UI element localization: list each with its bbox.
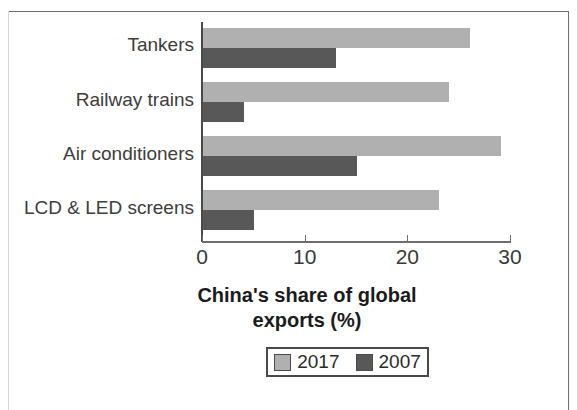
legend: 2017 2007: [266, 347, 429, 377]
bar-2017-railway-trains: [203, 82, 449, 102]
y-axis-line: [201, 22, 203, 242]
x-tick-label-20: 20: [396, 245, 419, 269]
category-label-lcd-led-screens: LCD & LED screens: [24, 197, 194, 219]
legend-label-2007: 2007: [379, 352, 421, 372]
bar-2017-air-conditioners: [203, 136, 501, 156]
x-axis-title-line2: exports (%): [162, 308, 452, 333]
bar-2017-lcd-led-screens: [203, 190, 439, 210]
bar-2007-tankers: [203, 48, 336, 68]
x-tick-label-0: 0: [196, 245, 208, 269]
x-tick-20: [407, 235, 408, 242]
bar-2007-railway-trains: [203, 102, 244, 122]
legend-swatch-2007-icon: [356, 354, 373, 371]
x-tick-10: [305, 235, 306, 242]
x-axis-title-line1: China's share of global: [162, 283, 452, 308]
legend-label-2017: 2017: [297, 352, 339, 372]
bar-2007-air-conditioners: [203, 156, 357, 176]
x-tick-label-30: 30: [498, 245, 521, 269]
category-label-air-conditioners: Air conditioners: [63, 143, 194, 165]
legend-swatch-2017-icon: [274, 354, 291, 371]
category-label-railway-trains: Railway trains: [76, 89, 194, 111]
legend-entry-2007: 2007: [356, 352, 421, 372]
bar-2007-lcd-led-screens: [203, 210, 254, 230]
category-label-tankers: Tankers: [127, 34, 194, 56]
x-tick-label-10: 10: [293, 245, 316, 269]
bar-2017-tankers: [203, 28, 470, 48]
x-tick-30: [510, 235, 511, 242]
x-tick-0: [202, 235, 203, 242]
chart-figure: Tankers Railway trains Air conditioners …: [0, 0, 577, 410]
x-axis-line: [202, 241, 511, 243]
x-axis-title: China's share of global exports (%): [162, 283, 452, 333]
legend-entry-2017: 2017: [274, 352, 339, 372]
